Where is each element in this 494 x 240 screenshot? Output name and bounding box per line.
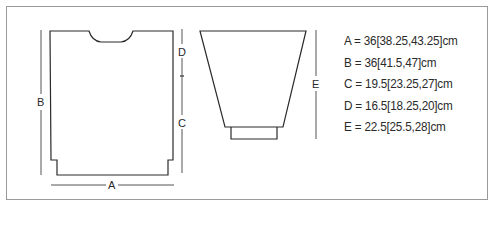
measurement-e: E = 22.5[25.5,28]cm: [344, 116, 458, 138]
sleeve-panel: [200, 31, 306, 139]
measurement-b: B = 36[41.5,47]cm: [344, 52, 458, 74]
dimension-d-label: D: [178, 46, 186, 58]
measurement-c: C = 19.5[23.25,27]cm: [344, 73, 458, 95]
dimension-a-label: A: [108, 179, 116, 191]
measurement-d: D = 16.5[18.25,20]cm: [344, 95, 458, 117]
measurement-a: A = 36[38.25,43.25]cm: [344, 30, 458, 52]
dimension-b-label: B: [37, 96, 44, 108]
dimension-e-label: E: [312, 78, 319, 90]
measurements-legend: A = 36[38.25,43.25]cm B = 36[41.5,47]cm …: [344, 30, 458, 138]
body-panel: [50, 31, 173, 175]
dimension-c-label: C: [178, 117, 186, 129]
